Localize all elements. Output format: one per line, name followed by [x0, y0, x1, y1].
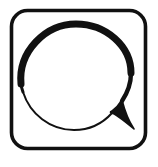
speech-bubble-icon: Speech bubble in rounded square frame	[0, 0, 158, 167]
icon-canvas: Speech bubble in rounded square frame	[0, 0, 158, 167]
speech-bubble-tail-joint	[111, 112, 113, 113]
